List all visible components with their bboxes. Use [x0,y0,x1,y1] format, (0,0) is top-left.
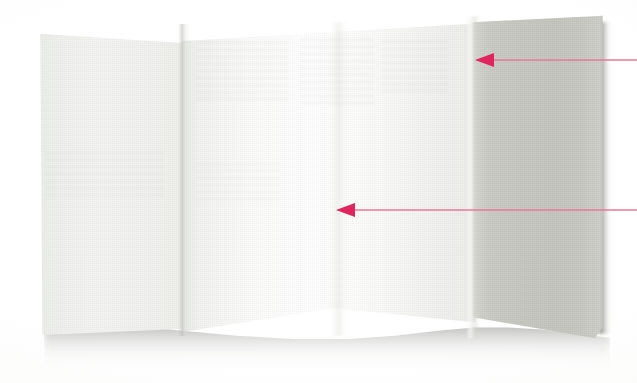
paper-grain-texture [38,26,186,338]
figure-root [0,0,637,383]
paper-grain-texture [470,14,606,340]
folded-paper-sheet [0,0,637,383]
paper-panel-middle [182,22,476,340]
paper-panel-right [470,14,606,340]
paper-panel-left [38,26,186,338]
paper-grain-texture [182,22,476,340]
